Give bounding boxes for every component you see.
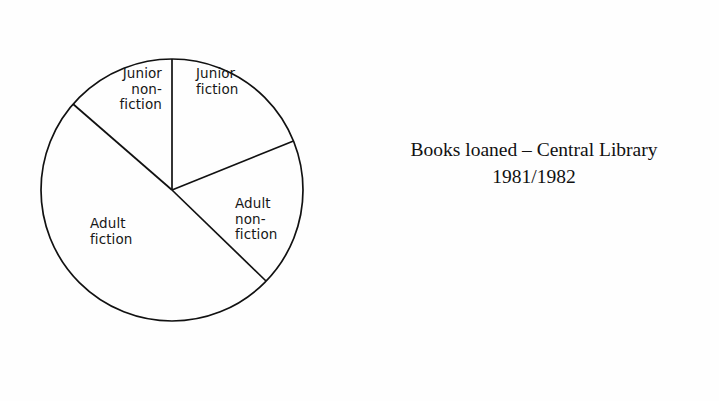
caption-line-1: Books loaned – Central Library <box>378 136 690 163</box>
slice-label-junior-nonfiction: Junior non- fiction <box>84 66 162 113</box>
pie-divider-upper-left <box>73 104 172 190</box>
caption-line-2: 1981/1982 <box>378 163 690 190</box>
chart-caption: Books loaned – Central Library 1981/1982 <box>378 136 690 190</box>
pie-divider-upper-right <box>172 141 294 190</box>
slice-label-junior-fiction: Junior fiction <box>196 66 239 97</box>
slice-label-adult-fiction: Adult fiction <box>90 216 133 247</box>
pie-chart-svg <box>0 0 360 401</box>
pie-chart: Junior fiction Junior non- fiction Adult… <box>0 0 360 401</box>
chart-page: Junior fiction Junior non- fiction Adult… <box>0 0 719 401</box>
slice-label-adult-nonfiction: Adult non- fiction <box>235 196 278 243</box>
